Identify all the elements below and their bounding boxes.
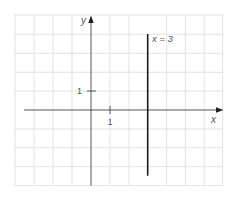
y-axis-label: y	[80, 15, 87, 26]
line-label-text: x = 3	[151, 33, 174, 44]
y-tick-label: 1	[77, 86, 82, 96]
x-tick-label: 1	[108, 117, 113, 127]
x-axis-label: x	[210, 114, 217, 125]
y-axis	[88, 16, 93, 186]
grid-border	[15, 15, 223, 186]
x-axis	[24, 107, 224, 112]
y-axis-arrow-icon	[88, 16, 93, 24]
grid	[15, 15, 223, 186]
coordinate-plane: y x 1 1 x = 3	[0, 0, 233, 202]
line-label: x = 3	[151, 33, 174, 44]
